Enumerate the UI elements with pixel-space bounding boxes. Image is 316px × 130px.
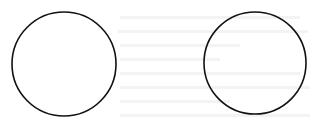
right-circle [204,12,306,114]
circles-diagram [0,0,316,130]
left-circle [12,12,116,116]
diagram-canvas [0,0,316,130]
